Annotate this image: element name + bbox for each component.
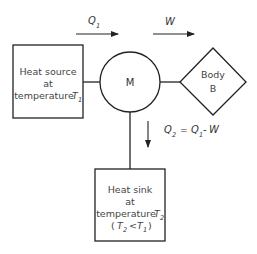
cond-rhs-sub: 1 bbox=[143, 226, 147, 234]
q2-rhs-var: Q bbox=[191, 124, 199, 135]
q2-eq: = bbox=[180, 125, 188, 135]
q2-minus: - bbox=[203, 124, 207, 135]
heat-sink-temp-sub: 2 bbox=[160, 214, 164, 222]
q1-flow: Q 1 bbox=[76, 15, 118, 34]
heat-source-line1: Heat source bbox=[19, 66, 76, 77]
q2-var: Q bbox=[164, 124, 172, 135]
heat-sink-line3: temperature bbox=[96, 208, 156, 219]
q1-sub: 1 bbox=[96, 22, 100, 30]
heat-sink-line2: at bbox=[125, 196, 135, 207]
body-b-diamond: Body B bbox=[180, 48, 246, 115]
q2-sub: 2 bbox=[172, 131, 176, 139]
heat-sink-line1: Heat sink bbox=[108, 184, 153, 195]
heat-engine-diagram: Heat source at temperature T 1 M Body B … bbox=[0, 0, 257, 254]
heat-source-line2: at bbox=[43, 78, 53, 89]
body-label-line2: B bbox=[210, 83, 217, 94]
body-label-line1: Body bbox=[201, 69, 225, 80]
cond-lhs-sub: 2 bbox=[123, 226, 127, 234]
heat-source-temp-sub: 1 bbox=[78, 96, 82, 104]
cond-open: ( bbox=[111, 220, 115, 231]
heat-source-line3: temperature bbox=[14, 90, 74, 101]
q1-var: Q bbox=[88, 15, 96, 26]
q2-rhs-w: W bbox=[209, 124, 220, 135]
q2-flow: Q 2 = Q 1 - W bbox=[148, 121, 220, 147]
cond-op: < bbox=[129, 220, 137, 231]
cond-close: ) bbox=[148, 220, 152, 231]
w-flow: W bbox=[153, 16, 194, 34]
w-var: W bbox=[165, 16, 176, 27]
engine-circle: M bbox=[100, 52, 160, 112]
heat-sink-box: Heat sink at temperature T 2 ( T 2 < T 1… bbox=[95, 169, 165, 241]
heat-source-box: Heat source at temperature T 1 bbox=[13, 45, 83, 118]
engine-label: M bbox=[126, 77, 135, 88]
